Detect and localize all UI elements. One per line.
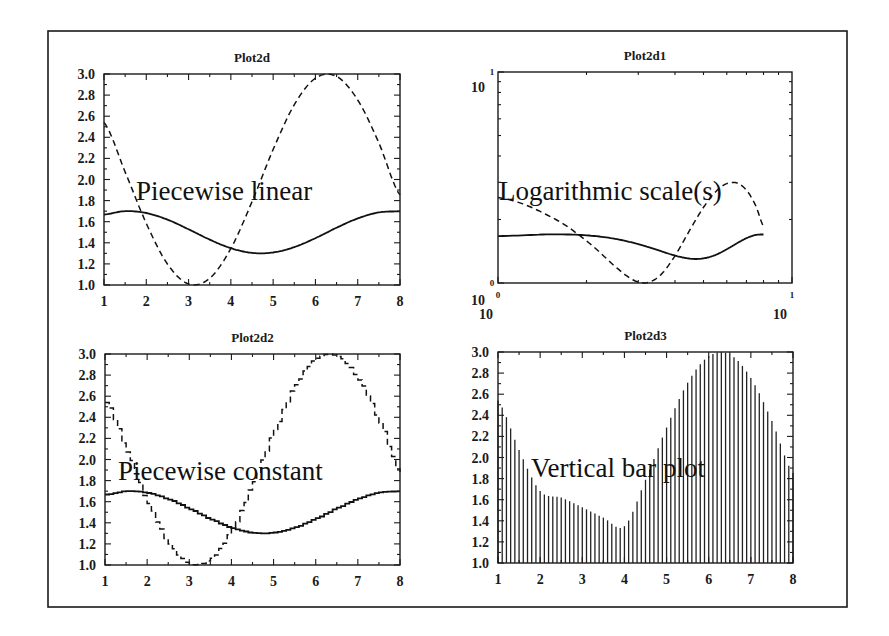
plot2d1-title: Plot2d1 [624,48,667,63]
plot2d-title: Plot2d [234,50,271,65]
y-tick-label: 1.4 [79,516,97,531]
y-tick-label: 10 [471,80,485,95]
x-tick-label: 2 [143,294,150,309]
x-tick-label: 3 [185,294,192,309]
figure-canvas: Plot2d 123456781.01.21.41.61.82.02.22.42… [0,0,889,636]
x-tick-label: 10 [479,307,493,322]
y-tick-label: 1.6 [78,215,96,230]
x-tick-label: 3 [186,574,193,589]
plot2d3-annotation: Vertical bar plot [531,453,705,483]
y-tick-label: 1.0 [472,556,490,571]
y-tick-label: 2.8 [78,88,96,103]
x-tick-label: 1 [101,294,108,309]
y-tick-label: 2.2 [472,429,490,444]
y-tick-label: 2.0 [472,451,490,466]
x-tick-label: 7 [747,572,754,587]
x-tick-label: 3 [579,572,586,587]
y-tick-label: 1.8 [79,474,97,489]
y-tick-label: 1.2 [472,535,490,550]
y-tick-label: 3.0 [79,347,97,362]
x-tick-label: 8 [397,574,404,589]
x-tick-label: 7 [354,574,361,589]
y-tick-label: 1.6 [79,495,97,510]
y-tick-label: 2.4 [472,408,490,423]
y-tick-label: 2.0 [79,453,97,468]
x-tick-label: 4 [621,572,628,587]
y-tick-label: 10 [471,293,485,308]
x-tick-label: 5 [663,572,670,587]
y-tick-label: 1.0 [79,558,97,573]
plot2d-panel: Plot2d 123456781.01.21.41.61.82.02.22.42… [78,50,404,309]
x-tick-label: 2 [144,574,151,589]
y-tick-label: 1.2 [79,537,97,552]
plot2d3-title: Plot2d3 [624,328,667,343]
solid-series-line [498,234,764,259]
x-tick-label: 4 [227,294,234,309]
y-tick-label: 2.6 [78,109,96,124]
plot2d1-panel: Plot2d1 100101100101 Logarithmic scale(s… [471,48,795,322]
x-tick-exponent: 1 [790,290,795,300]
solid-series-line [105,491,400,533]
plot2d-annotation: Piecewise linear [136,176,312,206]
x-tick-label: 5 [270,574,277,589]
x-tick-label: 4 [228,574,235,589]
x-tick-label: 5 [270,294,277,309]
x-tick-label: 2 [537,572,544,587]
figure-frame [48,31,847,607]
x-tick-label: 1 [495,572,502,587]
y-tick-label: 3.0 [78,67,96,82]
x-tick-label: 6 [312,294,319,309]
x-tick-exponent: 0 [496,290,501,300]
y-tick-exponent: 1 [490,67,495,77]
x-tick-label: 10 [773,307,787,322]
y-tick-label: 2.8 [79,368,97,383]
x-tick-label: 8 [790,572,797,587]
y-tick-label: 2.0 [78,173,96,188]
y-tick-label: 1.8 [472,472,490,487]
y-tick-label: 3.0 [472,345,490,360]
y-tick-label: 1.4 [472,514,490,529]
x-tick-label: 6 [705,572,712,587]
plot2d3-panel: Plot2d3 123456781.01.21.41.61.82.02.22.4… [472,328,797,587]
y-tick-label: 1.8 [78,194,96,209]
solid-series-line [104,211,400,253]
x-tick-label: 8 [397,294,404,309]
x-tick-label: 1 [102,574,109,589]
plot2d2-panel: Plot2d2 123456781.01.21.41.61.82.02.22.4… [79,330,404,589]
y-tick-label: 2.2 [78,151,96,166]
x-tick-label: 7 [354,294,361,309]
y-tick-label: 1.0 [78,278,96,293]
y-tick-label: 2.6 [79,389,97,404]
y-tick-label: 1.4 [78,236,96,251]
plot2d2-title: Plot2d2 [231,330,274,345]
plot2d1-annotation: Logarithmic scale(s) [499,176,722,206]
y-tick-label: 2.6 [472,387,490,402]
y-tick-label: 2.2 [79,431,97,446]
y-tick-label: 2.8 [472,366,490,381]
plot2d2-annotation: Piecewise constant [118,456,323,486]
y-tick-label: 2.4 [79,410,97,425]
y-tick-label: 1.2 [78,257,96,272]
y-tick-label: 2.4 [78,130,96,145]
y-tick-exponent: 0 [490,278,495,288]
x-tick-label: 6 [312,574,319,589]
y-tick-label: 1.6 [472,493,490,508]
